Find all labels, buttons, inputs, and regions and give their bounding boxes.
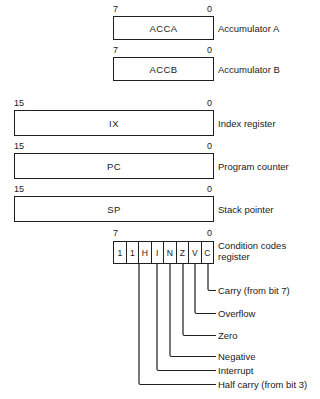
callout-label-interrupt: Interrupt (218, 365, 253, 376)
callout-label-zero: Zero (218, 330, 238, 341)
callout-label-overflow: Overflow (218, 308, 255, 319)
leader-line-overflow (195, 264, 216, 314)
callout-label-negative: Negative (218, 351, 256, 362)
leader-line-interrupt (157, 264, 216, 371)
leader-line-negative (170, 264, 216, 357)
leader-line-half-carry (139, 264, 216, 385)
leader-line-carry (208, 264, 216, 291)
leader-line-zero (183, 264, 216, 336)
callout-leader-lines (0, 0, 320, 399)
register-set-diagram: 7 0 ACCA Accumulator A 7 0 ACCB Accumula… (0, 0, 320, 399)
callout-label-carry: Carry (from bit 7) (218, 285, 290, 296)
callout-label-half-carry: Half carry (from bit 3) (218, 379, 307, 390)
